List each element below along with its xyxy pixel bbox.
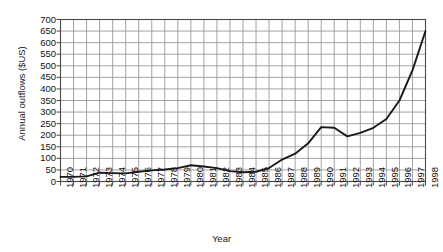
x-tick-label: 1978 xyxy=(169,166,179,187)
x-tick-label: 1993 xyxy=(364,166,374,187)
plot-area xyxy=(0,0,443,252)
x-tick-label: 1974 xyxy=(117,166,127,187)
gridlines xyxy=(61,20,426,182)
x-tick-label: 1994 xyxy=(377,166,387,187)
x-tick-label: 1991 xyxy=(338,166,348,187)
x-tick-label: 1987 xyxy=(286,166,296,187)
x-tick-label: 1984 xyxy=(247,166,257,187)
x-tick-label: 1998 xyxy=(430,166,440,187)
x-tick-label: 1995 xyxy=(390,166,400,187)
x-tick-label: 1996 xyxy=(403,166,413,187)
line-chart: Annual outflows ($US) 700650600550500450… xyxy=(0,0,443,252)
x-tick-label: 1975 xyxy=(130,166,140,187)
x-tick-label: 1977 xyxy=(156,166,166,187)
x-tick-label: 1973 xyxy=(104,166,114,187)
x-tick-label: 1983 xyxy=(234,166,244,187)
x-tick-label: 1979 xyxy=(182,166,192,187)
x-axis-title: Year xyxy=(0,233,443,244)
x-tick-label: 1985 xyxy=(260,166,270,187)
axis-tickmarks xyxy=(57,20,426,186)
x-tick-label: 1989 xyxy=(312,166,322,187)
x-tick-label: 1982 xyxy=(221,166,231,187)
x-tick-label: 1988 xyxy=(299,166,309,187)
x-tick-label: 1997 xyxy=(416,166,426,187)
x-tick-label: 1981 xyxy=(208,166,218,187)
x-tick-label: 1976 xyxy=(143,166,153,187)
x-tick-label: 1970 xyxy=(65,166,75,187)
x-tick-label: 1990 xyxy=(325,166,335,187)
x-tick-label: 1971 xyxy=(78,166,88,187)
x-tick-label: 1980 xyxy=(195,166,205,187)
x-tick-label: 1992 xyxy=(351,166,361,187)
x-tick-label: 1986 xyxy=(273,166,283,187)
x-tick-label: 1972 xyxy=(91,166,101,187)
